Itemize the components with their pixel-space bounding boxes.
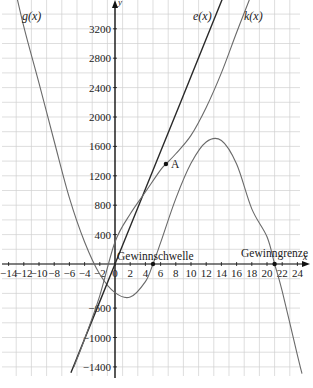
y-tick-label: 2000 xyxy=(89,111,112,123)
curve-gx xyxy=(12,0,302,374)
x-tick-label: 14 xyxy=(216,267,228,279)
y-tick-label: 1200 xyxy=(89,170,112,182)
point-marker-gewinngrenze xyxy=(272,262,276,266)
axes xyxy=(2,0,310,378)
y-tick-label: −1400 xyxy=(83,361,112,373)
x-tick-label: −2 xyxy=(94,267,106,279)
x-tick-label: 16 xyxy=(231,267,243,279)
y-tick-label: 3200 xyxy=(89,23,112,35)
y-tick-label: 800 xyxy=(95,199,112,211)
x-tick-label: 18 xyxy=(246,267,258,279)
x-tick-label: 24 xyxy=(292,267,304,279)
x-tick-label: −4 xyxy=(79,267,91,279)
x-tick-label: 12 xyxy=(201,267,212,279)
curves xyxy=(12,0,302,374)
label-gewinngrenze: Gewinngrenze xyxy=(241,247,308,260)
y-tick-label: 400 xyxy=(95,229,112,241)
label-point-a: A xyxy=(171,158,180,170)
label-k: k(x) xyxy=(244,9,263,23)
x-tick-label: 6 xyxy=(158,267,164,279)
label-g: g(x) xyxy=(22,9,41,23)
label-x-axis: x xyxy=(302,251,308,262)
x-tick-label: 20 xyxy=(262,267,274,279)
x-tick-label: 2 xyxy=(127,267,133,279)
label-gewinnschwelle: Gewinnschwelle xyxy=(117,250,194,262)
y-tick-label: 2800 xyxy=(89,52,112,64)
point-marker-gewinnschwelle xyxy=(151,262,155,266)
grid xyxy=(2,0,300,376)
label-e: e(x) xyxy=(193,9,212,23)
point-marker-a xyxy=(164,162,168,166)
function-chart: −14−12−10−8−6−4−2024681012141618202224 3… xyxy=(0,0,313,388)
x-tick-label: 10 xyxy=(186,267,198,279)
y-tick-label: 2400 xyxy=(89,82,112,94)
y-tick-label: −600 xyxy=(88,302,111,314)
x-tick-label: −10 xyxy=(30,267,48,279)
label-y-axis: y xyxy=(117,0,122,7)
y-tick-label: 1600 xyxy=(89,140,112,152)
x-tick-label: −6 xyxy=(64,267,76,279)
x-tick-label: −8 xyxy=(48,267,60,279)
x-tick-label: 8 xyxy=(173,267,179,279)
